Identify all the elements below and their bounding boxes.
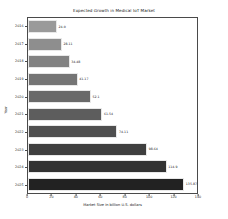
y-axis-tick-label: 2019 (8, 72, 25, 85)
bar-row: 74.11 (28, 125, 197, 138)
y-axis-tick-mark (25, 97, 27, 98)
bar-value-label: 98.64 (149, 147, 158, 151)
y-axis-tick-label: 2024 (8, 161, 25, 174)
y-axis-tick-mark (25, 132, 27, 133)
bar-value-label: 74.11 (119, 130, 128, 134)
bar-row: 34.48 (28, 55, 197, 68)
bar (28, 108, 102, 121)
x-axis-label: Market Size in billion U.S. dollars (27, 203, 198, 207)
bar-value-label: 135.87 (186, 182, 197, 186)
x-axis-tick-mark (75, 194, 76, 196)
bar (28, 73, 78, 86)
x-axis-tick-labels: 020406080100120140 (27, 195, 198, 202)
bar-row: 98.64 (28, 143, 197, 156)
bar (28, 178, 184, 191)
bar (28, 160, 167, 173)
y-axis-tick-label: 2021 (8, 108, 25, 121)
bar-value-label: 61.54 (104, 112, 113, 116)
y-axis-tick-mark (25, 185, 27, 186)
y-axis-tick-label: 2020 (8, 90, 25, 103)
x-axis-tick-mark (27, 194, 28, 196)
y-axis-tick-mark (25, 61, 27, 62)
bar-value-label: 41.17 (79, 77, 88, 81)
bar-value-label: 24.0 (59, 25, 66, 29)
x-axis-tick-mark (100, 194, 101, 196)
y-axis-tick-mark (25, 79, 27, 80)
bar-row: 135.87 (28, 178, 197, 191)
x-axis-tick-mark (51, 194, 52, 196)
chart-figure: Expected Growth in Medical IoT Market Ye… (0, 0, 228, 219)
x-axis-tick-mark (198, 194, 199, 196)
x-axis-tick-mark (124, 194, 125, 196)
bar-row: 28.11 (28, 38, 197, 51)
bar-value-label: 52.1 (92, 95, 99, 99)
y-axis-tick-label: 2017 (8, 37, 25, 50)
bar (28, 20, 57, 33)
y-axis-tick-label: 2023 (8, 143, 25, 156)
x-axis-tick-mark (149, 194, 150, 196)
bar-row: 61.54 (28, 108, 197, 121)
bar (28, 55, 70, 68)
y-axis-tick-mark (25, 44, 27, 45)
bar-value-label: 34.48 (71, 60, 80, 64)
bar-value-label: 28.11 (64, 42, 73, 46)
bar (28, 90, 91, 103)
y-axis-tick-labels: 2016201720182019202020212022202320242025 (8, 17, 25, 194)
bar-value-label: 114.9 (168, 165, 177, 169)
chart-title: Expected Growth in Medical IoT Market (0, 8, 228, 13)
y-axis-tick-mark (25, 167, 27, 168)
y-axis-tick-mark (25, 150, 27, 151)
y-axis-tick-label: 2022 (8, 125, 25, 138)
bar-row: 114.9 (28, 160, 197, 173)
y-axis-tick-mark (25, 26, 27, 27)
plot-area: 24.028.1134.4841.1752.161.5474.1198.6411… (27, 17, 198, 194)
y-axis-tick-label: 2018 (8, 55, 25, 68)
bar (28, 125, 117, 138)
bar (28, 38, 62, 51)
y-axis-tick-mark (25, 114, 27, 115)
x-axis-tick-mark (173, 194, 174, 196)
bar (28, 143, 147, 156)
bar-series: 24.028.1134.4841.1752.161.5474.1198.6411… (28, 18, 197, 193)
y-axis-tick-label: 2025 (8, 178, 25, 191)
bar-row: 52.1 (28, 90, 197, 103)
bar-row: 41.17 (28, 73, 197, 86)
bar-row: 24.0 (28, 20, 197, 33)
y-axis-tick-label: 2016 (8, 19, 25, 32)
